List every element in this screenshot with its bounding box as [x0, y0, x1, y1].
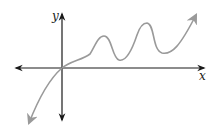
- y-axis-label: y: [52, 10, 59, 22]
- graph-canvas: [0, 0, 222, 137]
- x-axis-label: x: [199, 70, 206, 82]
- function-curve: [29, 15, 196, 123]
- function-graph: y x: [0, 0, 222, 137]
